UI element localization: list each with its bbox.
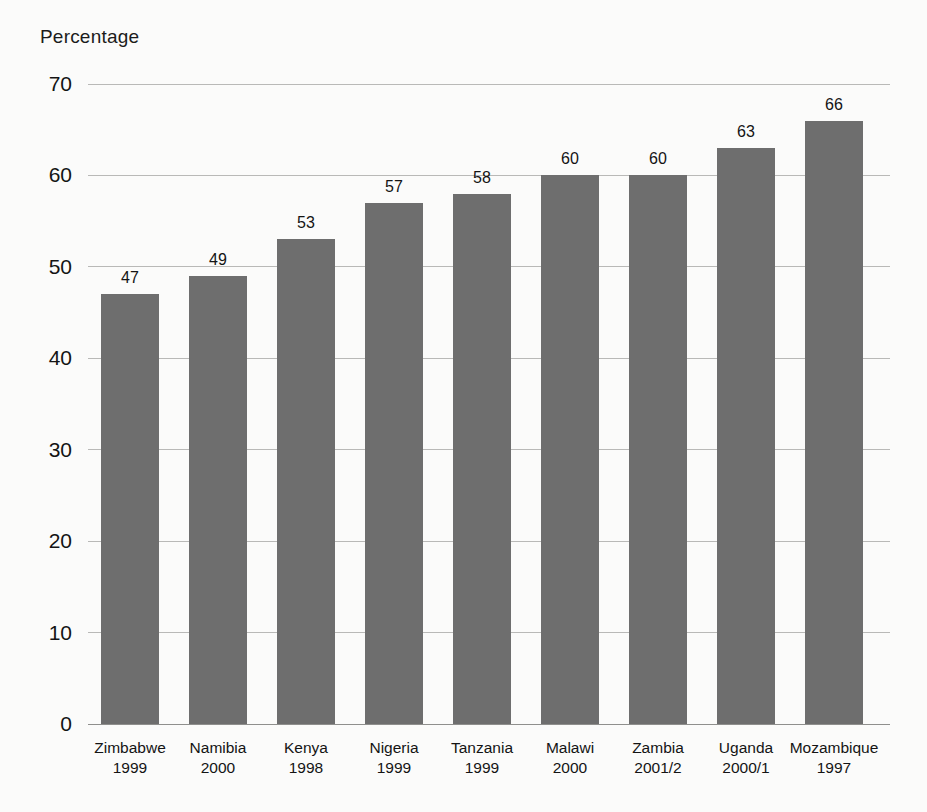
- bar: [101, 294, 159, 724]
- bar-value-label: 49: [173, 252, 263, 268]
- y-axis-tick-label: 40: [10, 347, 72, 368]
- axis-baseline: [88, 724, 890, 725]
- bar-value-label: 47: [85, 270, 175, 286]
- category-name: Mozambique: [774, 738, 894, 758]
- bar: [717, 148, 775, 724]
- x-axis-category-label: Mozambique1997: [774, 738, 894, 778]
- bar-value-label: 58: [437, 170, 527, 186]
- bar-value-label: 53: [261, 215, 351, 231]
- y-axis-tick-label: 20: [10, 530, 72, 551]
- y-axis-tick-label: 30: [10, 439, 72, 460]
- bar-value-label: 60: [525, 151, 615, 167]
- bar-value-label: 66: [789, 97, 879, 113]
- category-year: 1997: [774, 758, 894, 778]
- plot-area: 01020304050607047Zimbabwe199949Namibia20…: [0, 0, 927, 812]
- bar: [365, 203, 423, 724]
- bar: [629, 175, 687, 724]
- bar-value-label: 57: [349, 179, 439, 195]
- y-axis-tick-label: 50: [10, 256, 72, 277]
- bar: [189, 276, 247, 724]
- gridline: [88, 84, 890, 85]
- y-axis-tick-label: 0: [10, 713, 72, 734]
- bar-value-label: 60: [613, 151, 703, 167]
- bar: [453, 194, 511, 724]
- percentage-bar-chart: Percentage 01020304050607047Zimbabwe1999…: [0, 0, 927, 812]
- y-axis-tick-label: 60: [10, 164, 72, 185]
- bar-value-label: 63: [701, 124, 791, 140]
- bar: [277, 239, 335, 724]
- bar: [541, 175, 599, 724]
- y-axis-tick-label: 10: [10, 622, 72, 643]
- y-axis-tick-label: 70: [10, 73, 72, 94]
- bar: [805, 121, 863, 724]
